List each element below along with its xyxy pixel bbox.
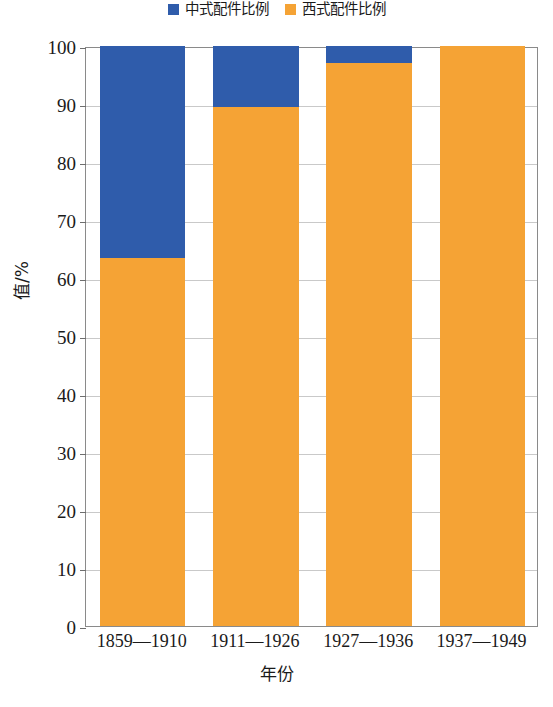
- y-axis-tick-label: 90: [13, 96, 85, 115]
- bar-group: [213, 48, 299, 626]
- bar-group: [440, 48, 526, 626]
- x-axis-tick-labels: 1859—19101911—19261927—19361937—1949: [85, 632, 538, 656]
- y-axis-tick-label: 0: [13, 618, 85, 637]
- x-axis-tick-label: 1859—1910: [85, 632, 198, 650]
- bar-segment-chinese: [213, 46, 299, 107]
- chart-legend: 中式配件比例 西式配件比例: [0, 2, 553, 17]
- bar-segment-western: [100, 258, 186, 626]
- legend-entry-chinese: 中式配件比例: [168, 2, 269, 17]
- legend-swatch-chinese-icon: [168, 4, 179, 15]
- stacked-bar-chart: 中式配件比例 西式配件比例 0102030405060708090100 值/%…: [0, 0, 553, 707]
- figure-caption: [0, 692, 553, 707]
- y-axis-tick-mark: [80, 628, 86, 629]
- bar-segment-western: [440, 46, 526, 626]
- y-axis-tick-label: 50: [13, 328, 85, 347]
- x-axis-tick-label: 1937—1949: [425, 632, 538, 650]
- bar-segment-chinese: [326, 46, 412, 63]
- bar-group: [326, 48, 412, 626]
- y-axis-tick-labels: 0102030405060708090100: [0, 47, 85, 627]
- y-axis-tick-label: 80: [13, 154, 85, 173]
- x-axis-tick-label: 1927—1936: [312, 632, 425, 650]
- x-axis-title: 年份: [0, 660, 553, 685]
- legend-label-chinese: 中式配件比例: [185, 2, 269, 17]
- plot-area: [85, 47, 538, 627]
- y-axis-tick-label: 20: [13, 502, 85, 521]
- y-axis-tick-label: 30: [13, 444, 85, 463]
- bar-group: [100, 48, 186, 626]
- y-axis-tick-label: 70: [13, 212, 85, 231]
- y-axis-tick-label: 10: [13, 560, 85, 579]
- bar-segment-western: [213, 107, 299, 626]
- y-axis-tick-label: 100: [13, 38, 85, 57]
- bar-segment-chinese: [100, 46, 186, 258]
- bar-segment-western: [326, 63, 412, 626]
- legend-entry-western: 西式配件比例: [285, 2, 386, 17]
- y-axis-title: 值/%: [8, 261, 33, 300]
- bars-layer: [86, 48, 537, 626]
- legend-swatch-western-icon: [285, 4, 296, 15]
- y-axis-tick-label: 40: [13, 386, 85, 405]
- x-axis-tick-label: 1911—1926: [198, 632, 311, 650]
- legend-label-western: 西式配件比例: [302, 2, 386, 17]
